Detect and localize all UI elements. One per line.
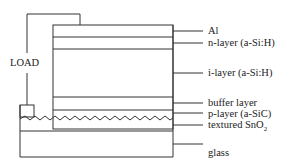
label-tco-text: textured SnO [208,119,264,130]
label-glass: glass [208,148,229,159]
label-tco: textured SnO2 [208,120,267,133]
label-buffer-layer: buffer layer [208,98,257,109]
label-p-layer: p-layer (a-SiC) [208,109,271,120]
device-stack [53,25,173,129]
label-al: Al [208,26,219,37]
bottom-contact [20,105,34,117]
solar-cell-structure-diagram [0,0,295,166]
label-n-layer: n-layer (a-Si:H) [208,38,275,49]
label-i-layer: i-layer (a-Si:H) [208,68,272,79]
load-label: LOAD [10,58,39,69]
label-tco-subscript: 2 [264,125,268,133]
textured-interface [20,116,173,120]
